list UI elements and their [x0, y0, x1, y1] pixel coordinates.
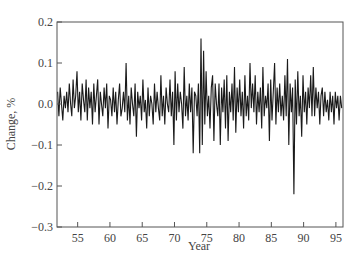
y-axis-title: Change, %	[4, 98, 18, 151]
x-tick-label: 85	[265, 231, 277, 245]
y-tick-label: 0.2	[38, 15, 53, 29]
x-tick-label: 70	[168, 231, 180, 245]
y-tick-label: −0.3	[31, 220, 53, 234]
y-tick-label: 0.0	[38, 97, 53, 111]
x-tick-label: 55	[72, 231, 84, 245]
chart: 0.20.10.0−0.1−0.2−0.3 556065707580859095…	[0, 0, 360, 265]
x-axis-title: Year	[188, 239, 210, 253]
x-tick-label: 80	[233, 231, 245, 245]
series-line	[58, 38, 342, 194]
x-tick-label: 90	[298, 231, 310, 245]
x-tick-label: 60	[104, 231, 116, 245]
y-tick-label: 0.1	[38, 56, 53, 70]
plot-area	[58, 38, 342, 194]
x-tick-label: 65	[136, 231, 148, 245]
y-tick-label: −0.2	[31, 179, 53, 193]
y-tick-label: −0.1	[31, 138, 53, 152]
x-tick-label: 95	[330, 231, 342, 245]
